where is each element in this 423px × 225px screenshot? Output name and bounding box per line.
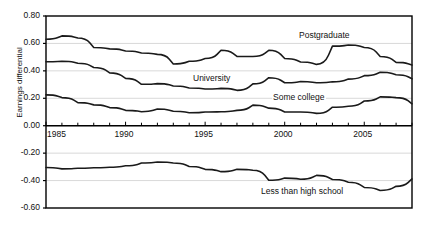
y-tick-label: -0.20 <box>6 147 40 157</box>
series-label-some-college: Some college <box>272 92 326 102</box>
x-tick-label: 1995 <box>194 129 213 139</box>
series-label-less-than-high-school: Less than high school <box>260 186 344 196</box>
chart-canvas <box>0 0 423 225</box>
y-tick-label: 0.00 <box>6 120 40 130</box>
series-label-postgraduate: Postgraduate <box>298 30 351 40</box>
x-tick-label: 2005 <box>353 129 372 139</box>
chart-figure: Earnings differential 0.800.600.400.200.… <box>0 0 423 225</box>
y-tick-label: 0.40 <box>6 65 40 75</box>
x-tick-label: 1985 <box>47 129 66 139</box>
y-tick-label: 0.60 <box>6 37 40 47</box>
y-tick-label: -0.60 <box>6 202 40 212</box>
y-tick-label: -0.40 <box>6 175 40 185</box>
y-tick-label: 0.80 <box>6 10 40 20</box>
x-tick-label: 1990 <box>115 129 134 139</box>
x-tick-label: 2000 <box>274 129 293 139</box>
series-label-university: University <box>192 73 231 83</box>
y-tick-label: 0.20 <box>6 92 40 102</box>
